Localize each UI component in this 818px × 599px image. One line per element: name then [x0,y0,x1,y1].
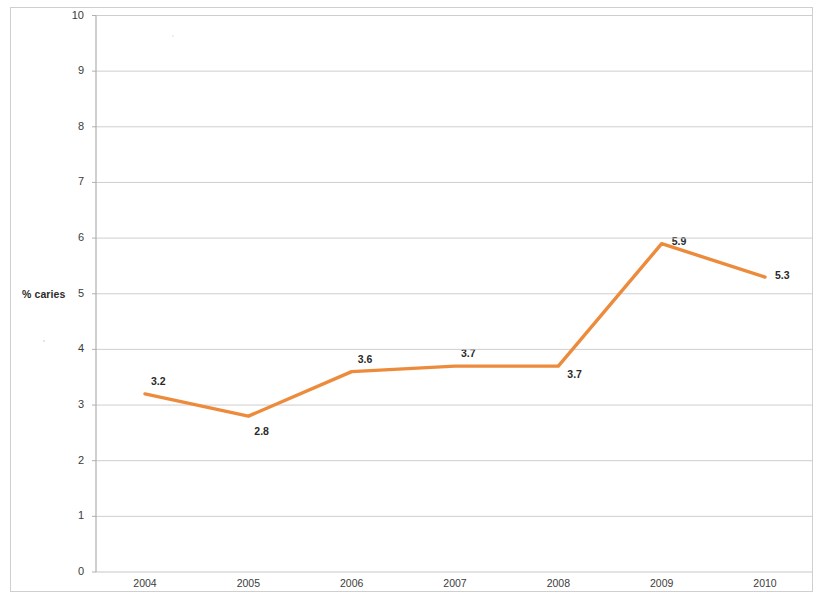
line-chart: % caries 109876543210 200420052006200720… [0,0,818,599]
gridlines [96,16,812,573]
axis-lines [92,16,96,573]
chart-page: % caries 109876543210 200420052006200720… [0,0,818,599]
series-line-group [145,244,765,417]
series-line-caries [145,244,765,417]
plot-canvas [0,0,818,599]
